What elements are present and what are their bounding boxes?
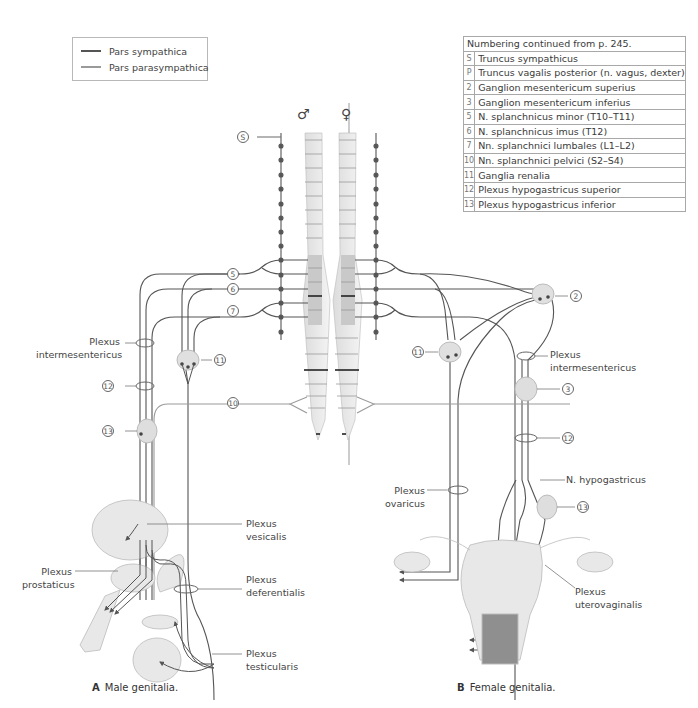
caption-text: Male genitalia.	[105, 682, 178, 693]
sympathetic-trunk-male	[257, 133, 283, 340]
label-line: vesicalis	[246, 531, 286, 544]
label-line: uterovaginalis	[575, 599, 642, 612]
label-plexus-ovaricus: Plexus ovaricus	[383, 485, 425, 510]
prostate	[111, 564, 155, 592]
plexus-13-ganglion-f	[537, 495, 557, 519]
male-symbol: ♂	[297, 108, 310, 121]
label-line: intermesentericus	[36, 349, 120, 362]
plexus-intermesentericus-oval	[136, 339, 154, 347]
marker-3: 3	[562, 383, 574, 395]
ovary-right	[577, 552, 613, 572]
label-line: Plexus	[56, 336, 120, 349]
label-line: ovaricus	[383, 498, 425, 511]
male-sympathetic-nerves	[140, 260, 308, 700]
label-line: deferentialis	[246, 587, 305, 600]
marker-13-female: 13	[577, 501, 589, 513]
label-plexus-intermesentericus-male: Plexus intermesentericus	[56, 336, 120, 361]
ganglia-renalia-female	[439, 342, 461, 362]
marker-6: 6	[227, 283, 239, 295]
vagina	[482, 614, 518, 664]
tuba-right	[540, 537, 590, 548]
penis	[80, 590, 120, 652]
female-symbol: ♀	[341, 108, 351, 121]
plexus-12-oval	[136, 382, 154, 390]
epididymis	[142, 615, 178, 629]
caption-text: Female genitalia.	[470, 682, 556, 693]
label-line: Plexus	[575, 586, 642, 599]
spinal-cord-female-body	[333, 133, 362, 440]
caption-female: BFemale genitalia.	[457, 682, 556, 693]
marker-7: 7	[227, 305, 239, 317]
label-n-hypogastricus: N. hypogastricus	[566, 474, 646, 487]
label-line: intermesentericus	[550, 362, 636, 375]
label-plexus-uterovaginalis: Plexus uterovaginalis	[575, 586, 642, 611]
marker-5: 5	[227, 268, 239, 280]
marker-s: S	[237, 131, 249, 143]
plexus-12-oval-f	[515, 434, 537, 442]
label-line: Plexus	[246, 518, 286, 531]
label-plexus-intermesentericus-female: Plexus intermesentericus	[550, 349, 636, 374]
label-line: testicularis	[246, 661, 298, 674]
marker-12-female: 12	[562, 432, 574, 444]
marker-11-female: 11	[412, 346, 424, 358]
label-line: Plexus	[246, 648, 298, 661]
marker-11-male: 11	[214, 354, 226, 366]
label-line: Plexus	[383, 485, 425, 498]
label-line: Plexus	[550, 349, 636, 362]
caption-male: AMale genitalia.	[92, 682, 178, 693]
plexus-13-ganglion	[137, 419, 157, 443]
caption-letter: A	[92, 682, 100, 693]
label-plexus-prostaticus: Plexus prostaticus	[22, 566, 72, 591]
ganglion-mesentericum-inferius	[515, 377, 537, 401]
caption-letter: B	[457, 682, 465, 693]
bladder	[92, 500, 168, 560]
label-plexus-vesicalis: Plexus vesicalis	[246, 518, 286, 543]
spinal-cord-male	[303, 133, 330, 440]
ganglion-mesentericum-superius	[532, 284, 554, 304]
testis	[133, 638, 181, 682]
marker-2: 2	[570, 290, 582, 302]
marker-13-male: 13	[102, 425, 114, 437]
label-plexus-testicularis: Plexus testicularis	[246, 648, 298, 673]
label-line: Plexus	[22, 566, 72, 579]
label-plexus-deferentialis: Plexus deferentialis	[246, 574, 305, 599]
ovary-left	[394, 552, 430, 572]
marker-12-male: 12	[102, 380, 114, 392]
label-line: Plexus	[246, 574, 305, 587]
label-line: prostaticus	[22, 579, 72, 592]
tuba-left	[420, 537, 470, 550]
marker-10: 10	[227, 397, 239, 409]
